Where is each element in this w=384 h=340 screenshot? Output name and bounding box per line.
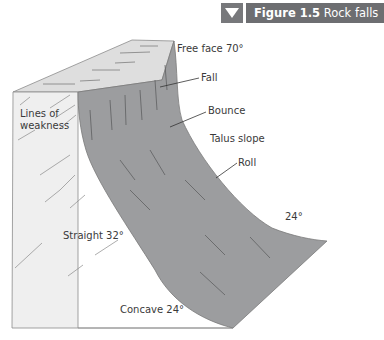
label-concave: Concave 24° (120, 304, 184, 316)
label-roll: Roll (238, 157, 256, 169)
label-toe-angle: 24° (285, 211, 303, 223)
label-bounce: Bounce (208, 105, 245, 117)
label-lines-of-weakness-1: Lines of (20, 108, 59, 120)
label-free-face: Free face 70° (177, 43, 244, 55)
label-fall: Fall (201, 72, 218, 84)
label-lines-of-weakness-2: weakness (20, 120, 69, 132)
label-straight: Straight 32° (63, 230, 124, 242)
label-talus-slope: Talus slope (210, 133, 265, 145)
